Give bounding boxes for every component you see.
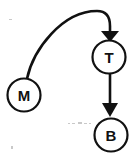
scan-speck [78, 122, 82, 124]
node-t-label: T [104, 49, 113, 66]
scan-speck [72, 123, 75, 124]
scan-speck [68, 123, 70, 124]
scan-speck [11, 146, 13, 149]
diagram-canvas: M T B [0, 0, 135, 157]
node-m[interactable]: M [8, 79, 41, 112]
scan-speck [84, 123, 87, 124]
edge-t-to-b [102, 74, 118, 117]
arrowhead-into-b-icon [102, 103, 118, 117]
node-b[interactable]: B [95, 119, 128, 152]
node-b-label: B [106, 127, 117, 144]
node-m-label: M [18, 87, 31, 104]
diagram-svg: M T B [0, 0, 135, 157]
node-t[interactable]: T [93, 41, 126, 74]
scan-speck [89, 123, 91, 124]
scan-speck [9, 19, 12, 20]
